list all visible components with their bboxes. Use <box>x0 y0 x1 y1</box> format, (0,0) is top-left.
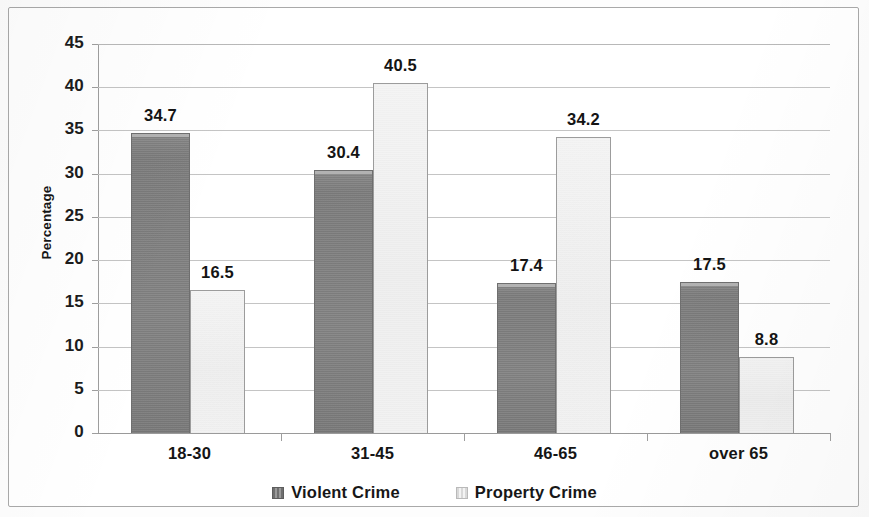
y-axis-tick-labels: 454035302520151050 <box>32 0 84 517</box>
bar-property-46-65 <box>556 137 611 433</box>
chart-screenshot: Percentage 454035302520151050 34.716.530… <box>0 0 869 517</box>
bar-value-label: 30.4 <box>294 143 393 162</box>
y-axis-tick-label: 0 <box>44 422 84 442</box>
property-crime-swatch-icon <box>456 487 468 499</box>
y-axis-tick-label: 20 <box>44 249 84 269</box>
legend-label: Property Crime <box>475 483 597 502</box>
bar-violent-18-30 <box>131 133 190 433</box>
x-axis-tick-mark <box>830 433 831 441</box>
x-axis-category-label: 31-45 <box>281 444 464 463</box>
bar-value-label: 17.5 <box>660 255 759 274</box>
legend-label: Violent Crime <box>291 483 400 502</box>
legend-item-property[interactable]: Property Crime <box>456 483 597 502</box>
bar-value-label: 8.8 <box>719 330 814 349</box>
gridline <box>98 130 830 131</box>
gridline <box>98 87 830 88</box>
legend-item-violent[interactable]: Violent Crime <box>272 483 400 502</box>
bar-violent-31-45 <box>314 170 373 433</box>
y-axis-tick-label: 10 <box>44 336 84 356</box>
x-axis-category-label: over 65 <box>647 444 830 463</box>
x-axis-category-label: 46-65 <box>464 444 647 463</box>
chart-legend: Violent CrimeProperty Crime <box>0 483 869 502</box>
y-axis-tick-label: 15 <box>44 292 84 312</box>
x-axis-category-label: 18-30 <box>98 444 281 463</box>
bar-property-18-30 <box>190 290 245 433</box>
bar-violent-46-65 <box>497 283 556 433</box>
gridline <box>98 44 830 45</box>
y-axis-tick-label: 45 <box>44 33 84 53</box>
gridline <box>98 217 830 218</box>
y-axis-tick-label: 35 <box>44 119 84 139</box>
bar-violent-over-65 <box>680 282 739 433</box>
bar-property-over-65 <box>739 357 794 433</box>
bar-property-31-45 <box>373 83 428 433</box>
x-axis-tick-mark <box>647 433 648 441</box>
bar-value-label: 34.2 <box>536 110 631 129</box>
violent-crime-swatch-icon <box>272 487 284 499</box>
x-axis-tick-mark <box>281 433 282 441</box>
bar-value-label: 40.5 <box>353 56 448 75</box>
y-axis-tick-label: 25 <box>44 206 84 226</box>
y-axis-tick-label: 5 <box>44 379 84 399</box>
bar-value-label: 16.5 <box>170 263 265 282</box>
bar-value-label: 17.4 <box>477 256 576 275</box>
y-axis-tick-label: 40 <box>44 76 84 96</box>
gridline <box>98 174 830 175</box>
bar-value-label: 34.7 <box>111 106 210 125</box>
y-axis-tick-label: 30 <box>44 163 84 183</box>
plot-area <box>98 44 830 433</box>
x-axis-tick-mark <box>464 433 465 441</box>
